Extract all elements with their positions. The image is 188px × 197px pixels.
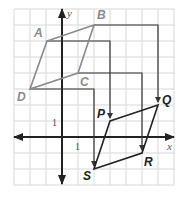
translation-diagram: y x 1 1 A B C D P Q R S — [0, 0, 188, 197]
vertex-label-d: D — [17, 90, 26, 104]
y-axis-label: y — [66, 7, 72, 19]
coordinate-plane-figure: y x 1 1 A B C D P Q R S — [0, 0, 188, 197]
vertex-label-c: C — [80, 75, 89, 89]
vertex-label-p: P — [97, 107, 106, 121]
vertex-label-s: S — [83, 169, 91, 183]
vertex-label-b: B — [97, 8, 106, 22]
x-tick-1: 1 — [75, 141, 80, 152]
vertex-label-a: A — [33, 26, 43, 40]
vertex-label-q: Q — [162, 93, 172, 107]
y-tick-1: 1 — [52, 117, 57, 128]
x-axis-label: x — [166, 140, 172, 152]
vertex-label-r: R — [144, 155, 153, 169]
